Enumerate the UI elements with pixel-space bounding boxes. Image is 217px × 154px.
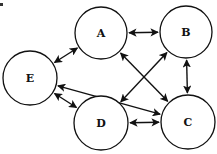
node-d: D <box>74 96 128 150</box>
node-label: B <box>181 26 190 39</box>
node-c: C <box>161 95 215 149</box>
edge-e-d-arrow <box>55 94 77 108</box>
corner-artifact <box>0 3 3 6</box>
node-e: E <box>3 51 57 105</box>
node-a: A <box>75 7 127 59</box>
node-b: B <box>160 6 212 58</box>
node-label: E <box>26 72 34 85</box>
node-label: C <box>184 116 193 129</box>
graph-diagram: ABCDE <box>0 0 217 154</box>
node-label: D <box>96 117 106 130</box>
edge-b-c-arrow <box>187 60 188 93</box>
node-label: A <box>96 27 106 40</box>
edge-e-a-arrow <box>55 48 78 63</box>
nodes-layer: ABCDE <box>3 6 215 150</box>
